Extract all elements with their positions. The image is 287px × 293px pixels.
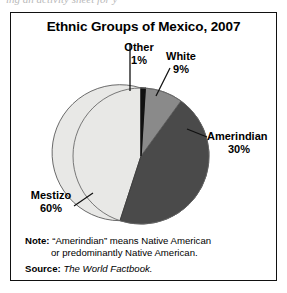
page-bleed-text: ing an activity sheet for y xyxy=(6,0,206,6)
source-line: Source: The World Factbook. xyxy=(25,263,269,275)
pie-label-mestizo-name: Mestizo xyxy=(31,189,71,201)
note-text-second: or predominantly Native American. xyxy=(51,247,198,258)
figure-footnotes: Note: “Amerindian” means Native American… xyxy=(25,235,269,276)
note-text-first: “Amerindian” means Native American xyxy=(52,235,211,246)
page-bleed-text-value: ing an activity sheet for y xyxy=(6,0,206,5)
pie-label-white: White 9% xyxy=(159,50,203,75)
note-keyword: Note: xyxy=(25,235,50,246)
pie-label-other: Other 1% xyxy=(117,41,161,66)
pie-label-white-name: White xyxy=(166,50,196,62)
pie-label-mestizo: Mestizo 60% xyxy=(23,189,79,214)
source-keyword: Source: xyxy=(25,263,61,274)
pie-label-other-name: Other xyxy=(124,41,153,53)
pie-label-amerindian-name: Amerindian xyxy=(207,130,268,142)
pie-label-white-value: 9% xyxy=(159,63,203,76)
source-value: The World Factbook. xyxy=(63,263,152,274)
figure-container: Ethnic Groups of Mexico, 2007 Other 1% W… xyxy=(10,12,277,281)
pie-label-mestizo-value: 60% xyxy=(23,202,79,215)
pie-label-amerindian-value: 30% xyxy=(207,143,271,156)
pie-label-other-value: 1% xyxy=(117,54,161,67)
note-line-first: Note: “Amerindian” means Native American xyxy=(25,235,269,247)
pie-label-amerindian: Amerindian 30% xyxy=(207,130,279,155)
note-line-second: or predominantly Native American. xyxy=(25,247,269,259)
